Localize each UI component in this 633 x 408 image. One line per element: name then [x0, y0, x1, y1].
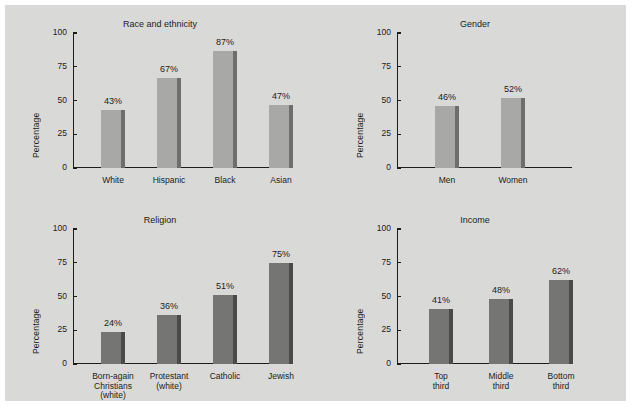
chart-title: Religion — [55, 215, 265, 225]
x-axis-category-label: Jewish — [236, 372, 326, 382]
y-axis-tick — [397, 32, 401, 33]
bar — [489, 299, 513, 364]
bar-shadow — [509, 299, 513, 364]
y-axis-tick — [397, 134, 401, 135]
y-axis-tick-label: 75 — [41, 257, 67, 267]
chart-panel-religion: ReligionPercentage025507510024%Born-agai… — [5, 201, 305, 397]
bar-fill — [489, 299, 509, 364]
bar-fill — [501, 98, 521, 168]
y-axis-tick-label: 100 — [365, 27, 391, 37]
bar-value-label: 75% — [251, 249, 311, 259]
y-axis-tick-label: 0 — [365, 162, 391, 172]
bar — [213, 295, 237, 364]
x-axis-line — [397, 167, 572, 168]
y-axis-tick-label: 25 — [41, 128, 67, 138]
y-axis-tick-label: 100 — [365, 223, 391, 233]
bar-shadow — [449, 309, 453, 364]
bar-value-label: 46% — [417, 92, 477, 102]
y-axis-tick — [397, 296, 401, 297]
x-axis-category-label: Asian — [236, 176, 326, 186]
plot-area: 025507510024%Born-againChristians(white)… — [73, 229, 281, 364]
bar-shadow — [569, 280, 573, 364]
bar — [501, 98, 525, 168]
bar — [157, 78, 181, 168]
bar-fill — [269, 105, 289, 168]
bar-value-label: 52% — [483, 84, 543, 94]
chart-panel-race-and-ethnicity: Race and ethnicityPercentage025507510043… — [5, 5, 305, 201]
y-axis-tick — [73, 296, 77, 297]
chart-title: Income — [375, 215, 575, 225]
y-axis-tick-label: 100 — [41, 27, 67, 37]
y-axis-tick-label: 50 — [365, 95, 391, 105]
bar-shadow — [521, 98, 525, 168]
bar-fill — [435, 106, 455, 168]
y-axis-tick — [397, 167, 401, 168]
y-axis-tick — [397, 363, 401, 364]
y-axis-tick-label: 75 — [41, 61, 67, 71]
bar-fill — [157, 315, 177, 364]
plot-area: 025507510043%White67%Hispanic87%Black47%… — [73, 33, 281, 168]
bar-value-label: 36% — [139, 301, 199, 311]
plot-area: 025507510041%Topthird48%Middlethird62%Bo… — [397, 229, 572, 364]
bar-value-label: 24% — [83, 318, 143, 328]
figure-canvas: Race and ethnicityPercentage025507510043… — [5, 5, 626, 401]
bar — [101, 332, 125, 364]
y-axis-tick-label: 50 — [365, 291, 391, 301]
bar-fill — [157, 78, 177, 168]
y-axis-tick — [73, 262, 77, 263]
y-axis-tick — [73, 330, 77, 331]
y-axis-tick — [73, 167, 77, 168]
bar — [269, 263, 293, 364]
y-axis-tick-label: 75 — [365, 257, 391, 267]
y-axis-tick-label: 50 — [41, 291, 67, 301]
bar-shadow — [121, 332, 125, 364]
y-axis-tick-label: 0 — [41, 358, 67, 368]
bar-value-label: 48% — [471, 285, 531, 295]
y-axis-tick — [397, 100, 401, 101]
y-axis-tick — [73, 32, 77, 33]
y-axis-label: Percentage — [31, 249, 41, 354]
bar-shadow — [177, 78, 181, 168]
y-axis-tick — [73, 66, 77, 67]
y-axis-label: Percentage — [355, 53, 365, 158]
chart-title: Gender — [375, 19, 575, 29]
y-axis-tick — [73, 100, 77, 101]
y-axis-label: Percentage — [355, 249, 365, 354]
y-axis-tick — [397, 66, 401, 67]
bar-value-label: 47% — [251, 91, 311, 101]
chart-title: Race and ethnicity — [55, 19, 265, 29]
y-axis-tick — [73, 363, 77, 364]
y-axis-tick-label: 50 — [41, 95, 67, 105]
x-axis-category-label: Women — [468, 176, 558, 186]
bar-value-label: 43% — [83, 96, 143, 106]
chart-panel-income: IncomePercentage025507510041%Topthird48%… — [335, 201, 633, 397]
bar-shadow — [289, 105, 293, 168]
bar-fill — [213, 295, 233, 364]
bar-fill — [213, 51, 233, 168]
x-axis-category-label: Bottomthird — [516, 372, 606, 391]
bar-value-label: 67% — [139, 64, 199, 74]
bar-shadow — [233, 51, 237, 168]
bar-shadow — [455, 106, 459, 168]
bar-shadow — [233, 295, 237, 364]
bar-fill — [101, 332, 121, 364]
y-axis-tick-label: 25 — [365, 324, 391, 334]
y-axis-tick-label: 25 — [365, 128, 391, 138]
bar-shadow — [121, 110, 125, 168]
bar-fill — [269, 263, 289, 364]
bar — [435, 106, 459, 168]
bar-value-label: 87% — [195, 37, 255, 47]
y-axis-tick-label: 75 — [365, 61, 391, 71]
y-axis-tick — [73, 228, 77, 229]
bar — [549, 280, 573, 364]
x-axis-line — [397, 363, 572, 364]
bar — [269, 105, 293, 168]
y-axis-tick — [397, 262, 401, 263]
bar — [213, 51, 237, 168]
bar-fill — [429, 309, 449, 364]
bar-shadow — [289, 263, 293, 364]
bar-value-label: 41% — [411, 295, 471, 305]
bar — [157, 315, 181, 364]
bar-value-label: 62% — [531, 266, 591, 276]
bar — [429, 309, 453, 364]
